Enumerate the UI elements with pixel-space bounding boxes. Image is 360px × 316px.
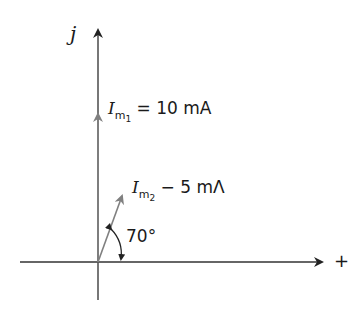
real-axis-label: + [334, 250, 349, 271]
im2-subscript-index: 2 [149, 193, 155, 203]
im2-symbol: I [132, 177, 139, 197]
phasor-diagram [0, 0, 360, 316]
im1-subscript: m1 [115, 109, 131, 122]
im1-value: = 10 mA [137, 98, 212, 118]
imaginary-axis-label: j [70, 22, 76, 46]
im2-value: − 5 mΛ [161, 177, 225, 197]
phasor-im1-label: Im1 = 10 mA [108, 98, 211, 118]
im1-subscript-index: 1 [125, 114, 131, 124]
phasor-im2 [98, 196, 122, 262]
angle-label: 70° [126, 226, 156, 246]
im2-subscript-main: m [139, 188, 150, 201]
im1-subscript-main: m [115, 109, 126, 122]
im1-symbol: I [108, 98, 115, 118]
phasor-im2-label: Im2 − 5 mΛ [132, 177, 225, 197]
angle-arc [111, 229, 121, 259]
im2-subscript: m2 [139, 188, 155, 201]
